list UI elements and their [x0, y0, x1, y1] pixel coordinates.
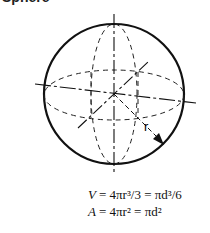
horizontal-axis	[35, 84, 196, 103]
volume-lhs: V	[88, 187, 96, 202]
radius-line	[114, 94, 160, 140]
area-lhs: A	[88, 204, 96, 219]
volume-formula: V = 4πr³/3 = πd³/6	[88, 187, 182, 203]
area-expr: = 4πr² = πd²	[99, 204, 162, 219]
area-formula: A = 4πr² = πd²	[88, 204, 162, 220]
volume-expr: = 4πr³/3 = πd³/6	[99, 187, 182, 202]
radius-label: r	[144, 119, 149, 134]
